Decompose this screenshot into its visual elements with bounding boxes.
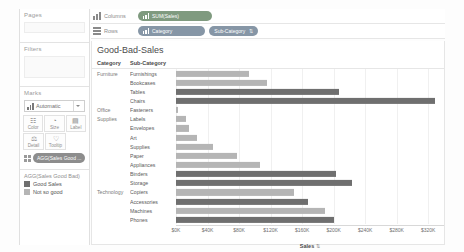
table-row[interactable]: Paper [92, 151, 444, 160]
axis-tick-label: $40K [202, 227, 214, 233]
marks-buttons-row-1: ☷ Color ◔ Size ▤ Label [20, 115, 89, 132]
bar[interactable] [176, 217, 334, 223]
table-row[interactable]: SuppliesLabels [92, 115, 444, 124]
pill-sum-sales[interactable]: SUM(Sales) [138, 11, 212, 21]
columns-shelf[interactable]: Columns SUM(Sales) [91, 9, 445, 24]
detail-button-label: Detail [28, 143, 40, 148]
table-row[interactable]: Envelopes [92, 124, 444, 133]
bar[interactable] [176, 98, 435, 104]
bar[interactable] [176, 171, 336, 177]
column-header-category: Category [92, 60, 130, 66]
table-row[interactable]: FurnitureFurnishings [92, 69, 444, 78]
filters-card: Filters [20, 43, 89, 87]
table-row[interactable]: Phones [92, 215, 444, 224]
sort-icon[interactable]: ⇅ [316, 243, 320, 249]
bar-track [176, 106, 444, 115]
rows-shelf[interactable]: Rows Category Sub-Category ⇅ [91, 24, 445, 39]
tooltip-icon: ♡ [53, 135, 59, 143]
pill-sub-category[interactable]: Sub-Category ⇅ [209, 26, 258, 36]
bar-track [176, 133, 444, 142]
bar[interactable] [176, 125, 189, 131]
legend-item-good-sales[interactable]: Good Sales [24, 181, 85, 187]
table-row[interactable]: Binders [92, 170, 444, 179]
label-button-label: Label [70, 125, 81, 130]
size-button[interactable]: ◔ Size [44, 115, 64, 132]
pages-label: Pages [20, 9, 89, 20]
bar-track [176, 124, 444, 133]
dimension-icon [143, 28, 149, 34]
mark-type-dropdown[interactable]: Automatic [24, 100, 85, 112]
bar-track [176, 197, 444, 206]
bar[interactable] [176, 189, 294, 195]
axis-tick-label: $240K [358, 227, 372, 233]
row-subcategory-label: Copiers [130, 189, 176, 195]
bar[interactable] [176, 70, 249, 76]
row-subcategory-label: Labels [130, 116, 176, 122]
marks-buttons-row-2: ⚖ Detail ♡ Tooltip [20, 133, 89, 150]
table-row[interactable]: TechnologyCopiers [92, 188, 444, 197]
bar[interactable] [176, 180, 352, 186]
left-cards-column: Pages Filters Marks Automatic ☷ Co [19, 9, 90, 245]
table-row[interactable]: Accessories [92, 197, 444, 206]
marks-label: Marks [20, 87, 89, 98]
bar[interactable] [176, 107, 178, 113]
bar-track [176, 215, 444, 224]
bar[interactable] [176, 89, 339, 95]
marks-color-pill[interactable]: AGG(Sales Good ... [33, 153, 85, 163]
table-row[interactable]: Chairs [92, 96, 444, 105]
sort-icon[interactable]: ⇅ [249, 28, 253, 34]
filters-shelf-dropzone[interactable] [24, 56, 85, 78]
pill-category[interactable]: Category [138, 26, 205, 36]
table-row[interactable]: Appliances [92, 160, 444, 169]
chevron-down-icon[interactable] [73, 101, 82, 111]
bar-track [176, 160, 444, 169]
bar-track [176, 170, 444, 179]
row-category-label: Supplies [92, 116, 130, 122]
worksheet-view: Good-Bad-Sales Category Sub-Category Fur… [91, 41, 445, 245]
table-row[interactable]: OfficeFasteners [92, 106, 444, 115]
row-category-label: Technology [92, 189, 130, 195]
bar[interactable] [176, 134, 197, 140]
label-icon: ▤ [72, 117, 79, 125]
table-row[interactable]: Supplies [92, 142, 444, 151]
axis-tick-label: $200K [326, 227, 340, 233]
pill-label: Category [152, 28, 172, 34]
row-category-label: Furniture [92, 71, 130, 77]
marks-card: Marks Automatic ☷ Color ◔ Size [20, 87, 89, 170]
row-category-label: Office [92, 107, 130, 113]
color-palette-icon: ☷ [30, 117, 36, 125]
legend-item-not-so-good[interactable]: Not so good [24, 189, 85, 195]
pages-shelf-dropzone[interactable] [24, 22, 85, 33]
tooltip-button[interactable]: ♡ Tooltip [45, 133, 66, 150]
bar[interactable] [176, 116, 186, 122]
bar-track [176, 151, 444, 160]
label-button[interactable]: ▤ Label [66, 115, 86, 132]
table-row[interactable]: Bookcases [92, 78, 444, 87]
color-legend: AGG(Sales Good Bad) Good Sales Not so go… [20, 170, 89, 200]
table-row[interactable]: Tables [92, 87, 444, 96]
table-row[interactable]: Art [92, 133, 444, 142]
bar[interactable] [176, 162, 260, 168]
color-button-label: Color [28, 125, 39, 130]
row-subcategory-label: Storage [130, 180, 176, 186]
bar[interactable] [176, 153, 237, 159]
x-axis: $0K$40K$80K$120K$160K$200K$240K$280K$320… [92, 225, 444, 249]
bar[interactable] [176, 144, 213, 150]
table-row[interactable]: Storage [92, 179, 444, 188]
color-button[interactable]: ☷ Color [23, 115, 43, 132]
size-icon: ◔ [52, 117, 56, 125]
bar[interactable] [176, 198, 308, 204]
table-row[interactable]: Machines [92, 206, 444, 215]
bar[interactable] [176, 80, 267, 86]
bar[interactable] [176, 208, 325, 214]
row-subcategory-label: Envelopes [130, 125, 176, 131]
axis-tick-label: $320K [421, 227, 435, 233]
detail-button[interactable]: ⚖ Detail [23, 133, 44, 150]
row-subcategory-label: Paper [130, 153, 176, 159]
row-subcategory-label: Art [130, 135, 176, 141]
bar-track [176, 179, 444, 188]
drag-handle-icon[interactable] [24, 155, 31, 162]
row-subcategory-label: Fasteners [130, 107, 176, 113]
legend-swatch [24, 181, 30, 187]
axis-tick-label: $80K [233, 227, 245, 233]
